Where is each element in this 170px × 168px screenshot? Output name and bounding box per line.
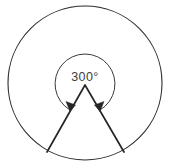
geometry-figure: 300° [0,0,170,168]
figure-canvas: 300° [0,0,170,168]
angle-label: 300° [71,70,98,84]
